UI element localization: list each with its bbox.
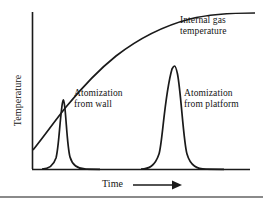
annotation-atomization-from-platform: Atomization from platform xyxy=(184,88,239,110)
curve-atomization-from-wall xyxy=(42,100,100,169)
curve-atomization-from-platform xyxy=(141,66,224,169)
annotation-atomization-from-wall: Atomization from wall xyxy=(74,88,123,110)
figure-bottom-border xyxy=(0,196,263,198)
y-axis-label: Temperature xyxy=(12,61,23,141)
x-axis-label: Time xyxy=(102,178,123,189)
right-arrow-icon xyxy=(133,181,182,190)
figure-container: Internal gas temperature Atomization fro… xyxy=(0,0,263,198)
annotation-internal-gas-temperature: Internal gas temperature xyxy=(180,15,226,37)
